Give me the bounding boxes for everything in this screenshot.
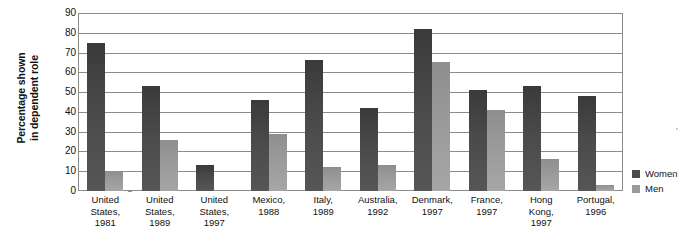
x-axis-tick-label-line: United [201,194,228,205]
bar-women [360,108,378,191]
bar-men [105,171,123,191]
y-axis-tick-labels: 0102030405060708090 [54,0,76,196]
x-axis-tick-label-line: Mexico, [252,194,285,205]
x-axis-tick-label: France,1997 [460,194,515,217]
bar-women [305,60,323,191]
y-axis-title-line2: in dependent role [28,55,40,141]
x-axis-tick-label: UnitedStates,1997 [187,194,242,229]
bar-men [160,140,178,191]
legend-label: Men [645,183,663,194]
x-axis-tick-label-line: Kong, [529,206,554,217]
y-axis-tick-label: 80 [65,28,76,38]
bar-group [142,13,178,191]
y-axis-tick-label: 40 [65,107,76,117]
bar-group [578,13,614,191]
x-axis-tick-label-line: 1989 [149,217,170,228]
x-axis-tick-label-line: 1988 [258,206,279,217]
x-axis-tick-label-line: 1997 [422,206,443,217]
x-axis-tick-label-line: Denmark, [412,194,453,205]
y-axis-title: Percentage shown in dependent role [0,0,56,196]
x-axis-tick-label-line: 1997 [204,217,225,228]
y-axis-tick-label: 50 [65,87,76,97]
x-axis-tick-label-line: 1996 [585,206,606,217]
bar-women [578,96,596,191]
bar-group [87,13,123,191]
x-axis-tick-label-line: Australia, [358,194,398,205]
bar-women [196,165,214,191]
x-axis-tick-label-line: States, [145,206,175,217]
y-axis-tick-label: 60 [65,67,76,77]
scan-speck [676,128,678,130]
x-axis-tick-label-line: Hong [530,194,553,205]
y-axis-title-line1: Percentage shown [15,52,27,143]
bar-group [196,13,232,191]
bar-men [378,165,396,191]
x-axis-tick-label: UnitedStates,1989 [133,194,188,229]
x-axis-tick-label-line: Italy, [314,194,333,205]
bar-men [323,167,341,191]
legend-item-men[interactable]: Men [632,183,691,194]
legend-item-women[interactable]: Women [632,168,691,179]
y-axis-tick-label: 10 [65,166,76,176]
y-axis-tick-label: 90 [65,8,76,18]
y-axis-tick-label: 70 [65,48,76,58]
legend-swatch-icon [632,170,640,178]
x-axis-tick-label-line: 1997 [531,217,552,228]
x-axis-tick-label: Mexico,1988 [242,194,297,217]
x-axis-tick-label: Australia,1992 [351,194,406,217]
y-axis-tick-mark [128,191,132,192]
x-axis-tick-label: UnitedStates,1981 [78,194,133,229]
x-axis-tick-label-line: Portugal, [577,194,615,205]
x-axis-tick-label-line: 1981 [95,217,116,228]
bar-men [432,62,450,191]
bar-group [523,13,559,191]
bar-men [596,185,614,191]
bar-group [414,13,450,191]
bar-group [469,13,505,191]
x-axis-tick-label-line: France, [471,194,503,205]
bar-group [251,13,287,191]
x-axis-tick-label-line: States, [90,206,120,217]
bar-men [269,134,287,191]
y-axis-tick-label: 20 [65,146,76,156]
y-axis-tick-label: 0 [70,186,76,196]
x-axis-tick-label: Denmark,1997 [405,194,460,217]
bar-women [414,29,432,191]
bar-men [487,110,505,191]
chart-legend: WomenMen [632,168,691,198]
x-axis-tick-label-line: United [92,194,119,205]
y-axis-tick-label: 30 [65,127,76,137]
x-axis-tick-labels: UnitedStates,1981UnitedStates,1989United… [78,194,623,247]
bar-women [251,100,269,191]
scan-speck [672,172,674,174]
bar-group [305,13,341,191]
bar-women [87,43,105,191]
x-axis-tick-label: HongKong,1997 [514,194,569,229]
bar-women [142,86,160,191]
x-axis-tick-label-line: 1989 [313,206,334,217]
x-axis-tick-label-line: 1992 [367,206,388,217]
bar-women [523,86,541,191]
x-axis-tick-label: Italy,1989 [296,194,351,217]
bars-layer [78,13,623,191]
x-axis-tick-label: Portugal,1996 [569,194,624,217]
x-axis-tick-label-line: States, [199,206,229,217]
bar-women [469,90,487,191]
x-axis-tick-label-line: United [146,194,173,205]
bar-chart: Percentage shown in dependent role 01020… [0,0,691,247]
x-axis-tick-label-line: 1997 [476,206,497,217]
bar-group [360,13,396,191]
legend-swatch-icon [632,185,640,193]
bar-men [541,159,559,191]
